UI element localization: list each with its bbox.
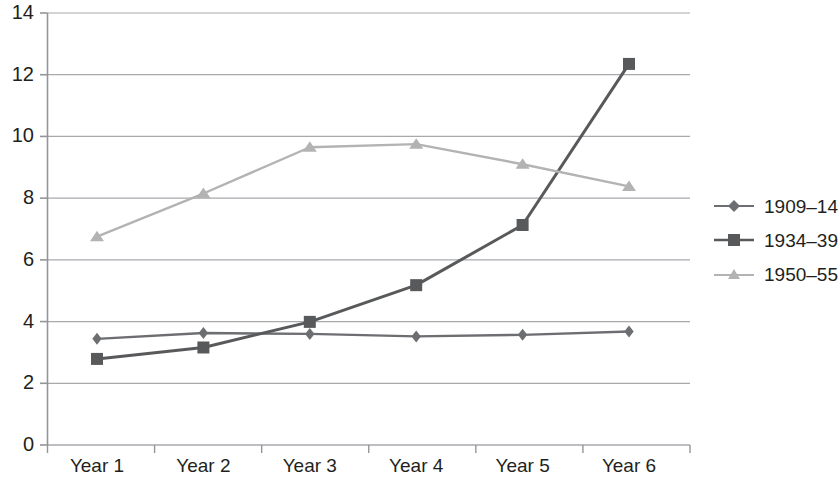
- gridlines: [48, 13, 691, 445]
- y-axis-ticks: [40, 13, 48, 445]
- data-point-marker: [196, 188, 210, 199]
- data-point-marker: [199, 327, 208, 339]
- data-point-marker: [305, 328, 314, 340]
- y-axis-tick-label: 12: [0, 64, 34, 84]
- y-axis-tick-label: 2: [0, 372, 34, 392]
- legend-marker-diamond-icon: [712, 198, 756, 214]
- data-point-marker: [304, 316, 316, 328]
- data-point-marker: [410, 279, 422, 291]
- series-3: [90, 138, 636, 241]
- y-axis-tick-label: 0: [0, 434, 34, 454]
- legend-marker-triangle-icon: [712, 266, 756, 282]
- x-axis-tick-label: Year 6: [574, 456, 684, 475]
- chart-legend: 1909–14 1934–39 1950–55: [712, 189, 832, 291]
- legend-item-1950-55[interactable]: 1950–55: [712, 257, 832, 291]
- data-point-marker: [91, 353, 103, 365]
- legend-label-1950-55: 1950–55: [764, 265, 838, 284]
- data-point-marker: [517, 219, 529, 231]
- series-line: [97, 331, 629, 338]
- data-point-marker: [623, 58, 635, 70]
- y-axis-tick-label: 10: [0, 125, 34, 145]
- x-axis-tick-label: Year 4: [361, 456, 471, 475]
- series-2: [91, 58, 635, 365]
- legend-item-1909-14[interactable]: 1909–14: [712, 189, 832, 223]
- data-series-layer: [90, 58, 636, 365]
- x-axis-tick-label: Year 3: [255, 456, 365, 475]
- y-axis-tick-label: 4: [0, 311, 34, 331]
- y-axis-tick-label: 8: [0, 187, 34, 207]
- data-point-marker: [518, 329, 527, 341]
- legend-item-1934-39[interactable]: 1934–39: [712, 223, 832, 257]
- data-point-marker: [92, 333, 101, 345]
- x-axis-tick-label: Year 1: [42, 456, 152, 475]
- legend-label-1909-14: 1909–14: [764, 197, 838, 216]
- data-point-marker: [624, 325, 633, 337]
- series-line: [97, 64, 629, 359]
- y-axis-tick-label: 6: [0, 249, 34, 269]
- y-axis-tick-label: 14: [0, 2, 34, 22]
- legend-label-1934-39: 1934–39: [764, 231, 838, 250]
- legend-marker-square-icon: [712, 232, 756, 248]
- x-axis-tick-label: Year 5: [468, 456, 578, 475]
- x-axis-tick-label: Year 2: [148, 456, 258, 475]
- x-axis-ticks: [48, 445, 691, 453]
- data-point-marker: [197, 341, 209, 353]
- series-1: [92, 325, 633, 344]
- series-line: [97, 144, 629, 237]
- data-point-marker: [412, 330, 421, 342]
